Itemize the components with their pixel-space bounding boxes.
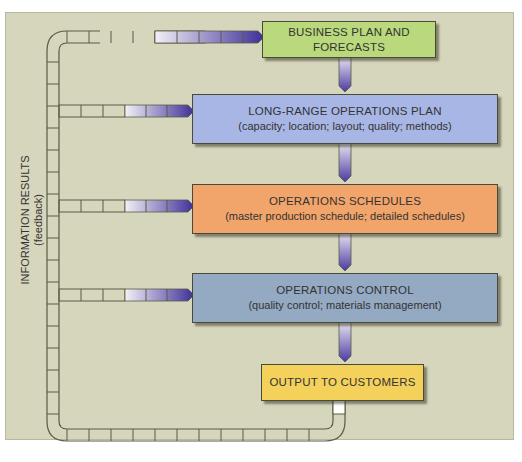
box-title: OPERATIONS CONTROL xyxy=(276,283,414,298)
box-title: OPERATIONS SCHEDULES xyxy=(269,194,421,209)
feedback-arrow-schedules xyxy=(59,200,194,212)
box-title: BUSINESS PLAN AND xyxy=(288,25,410,40)
box-subtitle: (quality control; materials management) xyxy=(248,298,441,313)
feedback-label-line2: (feedback) xyxy=(32,155,45,284)
box-output-to-customers: OUTPUT TO CUSTOMERS xyxy=(261,364,424,401)
box-subtitle: (capacity; location; layout; quality; me… xyxy=(238,119,451,134)
box-operations-schedules: OPERATIONS SCHEDULES (master production … xyxy=(192,184,498,234)
flow-arrow-4 xyxy=(339,322,351,362)
box-business-plan: BUSINESS PLAN AND FORECASTS xyxy=(262,21,436,58)
box-title: OUTPUT TO CUSTOMERS xyxy=(269,375,415,390)
box-title-line2: FORECASTS xyxy=(313,40,385,55)
box-title: LONG-RANGE OPERATIONS PLAN xyxy=(248,104,442,119)
feedback-arrow-control xyxy=(59,289,194,301)
feedback-arrow-long-range xyxy=(59,105,194,117)
feedback-label-line1: INFORMATION RESULTS xyxy=(19,155,32,284)
flow-arrow-2 xyxy=(339,143,351,182)
feedback-label: INFORMATION RESULTS (feedback) xyxy=(2,120,62,320)
feedback-arrow-business-plan xyxy=(155,31,264,43)
box-operations-control: OPERATIONS CONTROL (quality control; mat… xyxy=(192,273,498,323)
flow-arrow-3 xyxy=(339,233,351,271)
flow-arrow-1 xyxy=(339,57,351,92)
box-subtitle: (master production schedule; detailed sc… xyxy=(225,209,465,224)
box-long-range-plan: LONG-RANGE OPERATIONS PLAN (capacity; lo… xyxy=(192,94,498,144)
